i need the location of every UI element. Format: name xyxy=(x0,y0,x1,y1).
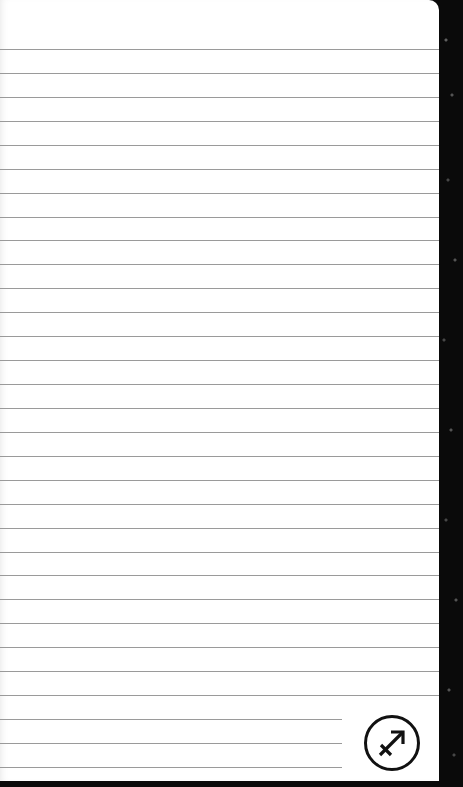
ruled-line xyxy=(0,671,439,672)
ruled-line xyxy=(0,49,439,50)
ruled-line xyxy=(0,456,439,457)
ruled-line xyxy=(0,408,439,409)
ruled-line-short xyxy=(0,719,342,720)
notebook-page xyxy=(0,0,439,781)
ruled-line xyxy=(0,695,439,696)
ruled-line xyxy=(0,336,439,337)
ruled-line xyxy=(0,264,439,265)
ruled-line xyxy=(0,552,439,553)
ruled-line xyxy=(0,312,439,313)
ruled-line xyxy=(0,504,439,505)
ruled-line xyxy=(0,360,439,361)
ruled-line xyxy=(0,623,439,624)
ruled-line xyxy=(0,288,439,289)
sagittarius-icon xyxy=(363,714,421,772)
ruled-line xyxy=(0,384,439,385)
ruled-line xyxy=(0,432,439,433)
ruled-line xyxy=(0,121,439,122)
ruled-line xyxy=(0,169,439,170)
ruled-line xyxy=(0,240,439,241)
ruled-line-short xyxy=(0,743,342,744)
ruled-line xyxy=(0,217,439,218)
ruled-line xyxy=(0,193,439,194)
ruled-line xyxy=(0,73,439,74)
ruled-line xyxy=(0,145,439,146)
ruled-line xyxy=(0,575,439,576)
ruled-line xyxy=(0,647,439,648)
ruled-line xyxy=(0,97,439,98)
ruled-line xyxy=(0,599,439,600)
ruled-line-short xyxy=(0,767,342,768)
ruled-line xyxy=(0,480,439,481)
ruled-line xyxy=(0,528,439,529)
